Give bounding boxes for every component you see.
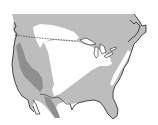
range-map bbox=[0, 0, 158, 125]
